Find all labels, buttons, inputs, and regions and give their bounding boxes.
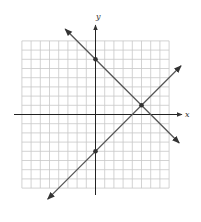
point-marker	[139, 103, 144, 108]
coordinate-graph: y x	[0, 0, 201, 222]
line-1	[65, 29, 179, 143]
point-marker	[93, 149, 98, 154]
x-axis-label: x	[185, 110, 190, 119]
y-axis-label: y	[95, 12, 101, 21]
point-marker	[93, 57, 98, 62]
